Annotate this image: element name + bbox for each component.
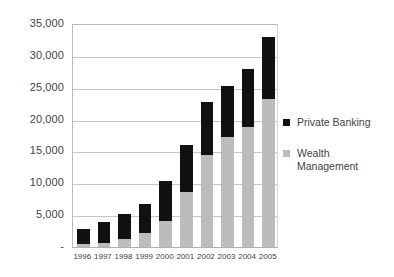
bar-segment-private-banking — [159, 181, 172, 221]
x-tick-label: 2003 — [216, 252, 237, 261]
bar-group — [159, 181, 172, 247]
y-axis: -5,00010,00015,00020,00025,00030,00035,0… — [0, 0, 68, 277]
y-tick-label: 10,000 — [30, 177, 64, 188]
plot-area — [72, 24, 278, 247]
bar-group — [77, 229, 90, 247]
legend-entry-wealth-management[interactable]: WealthManagement — [283, 147, 391, 173]
bar-group — [221, 86, 234, 247]
legend-label: Wealth — [297, 147, 391, 160]
axis-baseline — [72, 247, 278, 248]
x-tick-label: 2002 — [196, 252, 217, 261]
bar-segment-wealth-management — [262, 99, 275, 247]
bar-segment-private-banking — [180, 145, 193, 192]
bar-segment-private-banking — [262, 37, 275, 99]
x-tick-label: 1999 — [134, 252, 155, 261]
x-tick-label: 1998 — [113, 252, 134, 261]
bar-segment-private-banking — [77, 229, 90, 244]
bar-group — [262, 37, 275, 247]
legend-entry-private-banking[interactable]: Private Banking — [283, 116, 391, 129]
legend-swatch-icon — [283, 119, 290, 126]
bar-group — [201, 102, 214, 247]
bar-segment-private-banking — [139, 204, 152, 233]
bar-segment-wealth-management — [139, 233, 152, 247]
bar-segment-wealth-management — [201, 155, 214, 247]
y-tick-label: 20,000 — [30, 114, 64, 125]
bar-segment-wealth-management — [221, 137, 234, 247]
bar-segment-wealth-management — [159, 221, 172, 247]
legend-label: Management — [297, 160, 391, 173]
y-tick-label: - — [60, 241, 64, 252]
x-tick-label: 2001 — [175, 252, 196, 261]
x-tick-label: 2004 — [237, 252, 258, 261]
bar-group — [118, 214, 131, 247]
y-tick-label: 35,000 — [30, 18, 64, 29]
bar-segment-private-banking — [98, 222, 111, 242]
stacked-bar-chart: -5,00010,00015,00020,00025,00030,00035,0… — [0, 0, 394, 277]
bar-segment-private-banking — [242, 69, 255, 127]
bars-layer — [73, 25, 277, 247]
bar-segment-private-banking — [221, 86, 234, 138]
bar-segment-private-banking — [118, 214, 131, 239]
bar-segment-wealth-management — [118, 239, 131, 247]
chart-legend: Private BankingWealthManagement — [283, 116, 391, 191]
bar-group — [242, 69, 255, 247]
y-tick-label: 25,000 — [30, 82, 64, 93]
legend-label: Private Banking — [297, 116, 391, 129]
y-tick-label: 5,000 — [36, 209, 64, 220]
legend-swatch-icon — [283, 150, 290, 157]
bar-group — [180, 145, 193, 247]
bar-group — [98, 222, 111, 247]
y-tick-label: 30,000 — [30, 50, 64, 61]
x-axis: 1996199719981999200020012002200320042005 — [72, 250, 278, 268]
x-tick-label: 2000 — [154, 252, 175, 261]
x-tick-label: 1996 — [72, 252, 93, 261]
bar-group — [139, 204, 152, 247]
x-tick-label: 1997 — [93, 252, 114, 261]
y-tick-label: 15,000 — [30, 145, 64, 156]
x-tick-label: 2005 — [257, 252, 278, 261]
bar-segment-wealth-management — [242, 127, 255, 247]
bar-segment-wealth-management — [180, 192, 193, 247]
bar-segment-private-banking — [201, 102, 214, 154]
